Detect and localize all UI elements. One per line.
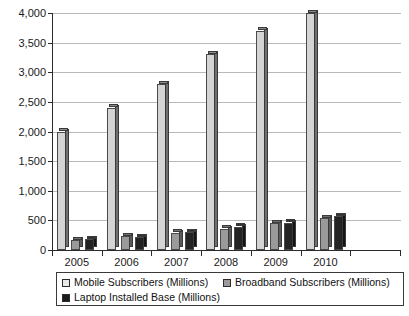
bar <box>57 129 70 251</box>
bar-top <box>236 223 245 226</box>
bar-group <box>152 13 202 250</box>
bar-top <box>208 51 217 54</box>
bar-side <box>165 81 169 247</box>
bar <box>121 233 134 250</box>
x-tick-mark <box>400 251 401 256</box>
legend-label-broadband: Broadband Subscribers (Millions) <box>235 277 390 288</box>
chart-legend: Mobile Subscribers (Millions) Broadband … <box>56 272 404 306</box>
bar <box>284 220 297 250</box>
legend-entry-laptop: Laptop Installed Base (Millions) <box>62 290 220 305</box>
x-tick-mark <box>251 251 252 256</box>
bar-side <box>193 229 197 247</box>
legend-entry-mobile: Mobile Subscribers (Millions) <box>62 275 208 290</box>
bar-top <box>123 233 132 236</box>
legend-label-laptop: Laptop Installed Base (Millions) <box>74 292 220 303</box>
bar-top <box>322 215 331 218</box>
bar <box>320 215 333 250</box>
bar-top <box>59 128 68 131</box>
x-axis-tick-label: 2006 <box>102 257 152 268</box>
bar-group <box>103 13 153 250</box>
bar-side <box>278 220 282 247</box>
y-axis-tick-label: 500 <box>28 215 46 226</box>
bar-side <box>179 230 183 247</box>
bar-chart: 05001,0001,5002,0002,5003,0003,5004,000 … <box>0 0 409 316</box>
bar-side <box>264 28 268 247</box>
x-axis-tick-label: 2007 <box>151 257 201 268</box>
x-tick-mark <box>102 251 103 256</box>
bar-group <box>302 13 352 250</box>
bar-group <box>202 13 252 250</box>
bar-top <box>73 237 82 240</box>
legend-label-mobile: Mobile Subscribers (Millions) <box>74 277 208 288</box>
bar <box>171 230 184 250</box>
legend-swatch-mobile-icon <box>62 279 70 287</box>
bar-side <box>314 10 318 247</box>
x-axis-tick-label: 2005 <box>52 257 102 268</box>
bar <box>234 224 247 250</box>
plot-wrapper: 05001,0001,5002,0002,5003,0003,5004,000 … <box>0 0 409 262</box>
bar-side <box>292 220 296 247</box>
x-tick-mark <box>350 251 351 256</box>
bar-top <box>258 27 267 30</box>
bar-side <box>328 215 332 247</box>
y-axis-tick-label: 2,000 <box>18 127 46 138</box>
bar-side <box>65 129 69 248</box>
bar <box>270 220 283 250</box>
bar <box>107 105 120 250</box>
bar-top <box>222 225 231 228</box>
bar-side <box>115 105 119 247</box>
y-axis-tick-label: 3,500 <box>18 38 46 49</box>
bar-top <box>308 10 317 13</box>
y-axis-tick-label: 2,500 <box>18 97 46 108</box>
bar <box>71 237 84 250</box>
bar-side <box>342 213 346 247</box>
bar <box>157 81 170 250</box>
y-axis-labels: 05001,0001,5002,0002,5003,0003,5004,000 <box>0 13 46 250</box>
bar-top <box>137 234 146 237</box>
legend-swatch-laptop-icon <box>62 294 70 302</box>
bar <box>334 213 347 250</box>
bar-group <box>252 13 302 250</box>
x-axis-tick-label: 2009 <box>251 257 301 268</box>
bar <box>256 28 269 250</box>
x-axis-tick-label: 2008 <box>201 257 251 268</box>
x-tick-mark <box>301 251 302 256</box>
x-tick-mark <box>151 251 152 256</box>
legend-swatch-broadband-icon <box>223 279 231 287</box>
y-axis-tick-label: 1,500 <box>18 156 46 167</box>
bar <box>85 236 98 250</box>
bar <box>206 51 219 250</box>
plot-area <box>52 13 401 251</box>
bar <box>220 226 233 250</box>
bar <box>135 234 148 250</box>
legend-entry-broadband: Broadband Subscribers (Millions) <box>223 275 390 290</box>
bar-side <box>214 51 218 247</box>
bar-group <box>53 13 103 250</box>
x-tick-mark <box>201 251 202 256</box>
bar-top <box>87 236 96 239</box>
x-axis-tick-label: 2010 <box>301 257 351 268</box>
y-axis-tick-label: 0 <box>40 245 46 256</box>
y-axis-tick-label: 4,000 <box>18 8 46 19</box>
bar-top <box>109 104 118 107</box>
bar-top <box>336 213 345 216</box>
legend-row-1: Mobile Subscribers (Millions) Broadband … <box>60 275 400 290</box>
y-axis-tick-label: 1,000 <box>18 186 46 197</box>
bar <box>185 229 198 250</box>
bar-top <box>272 220 281 223</box>
legend-row-2: Laptop Installed Base (Millions) <box>60 290 400 305</box>
y-axis-tick-label: 3,000 <box>18 67 46 78</box>
bar-top <box>159 81 168 84</box>
bar <box>306 10 319 250</box>
x-axis: 200520062007200820092010 <box>52 251 400 273</box>
x-tick-mark <box>52 251 53 256</box>
bar-top <box>187 229 196 232</box>
bar-side <box>228 226 232 247</box>
bar-top <box>173 229 182 232</box>
bar-side <box>242 224 246 247</box>
bar-top <box>286 219 295 222</box>
